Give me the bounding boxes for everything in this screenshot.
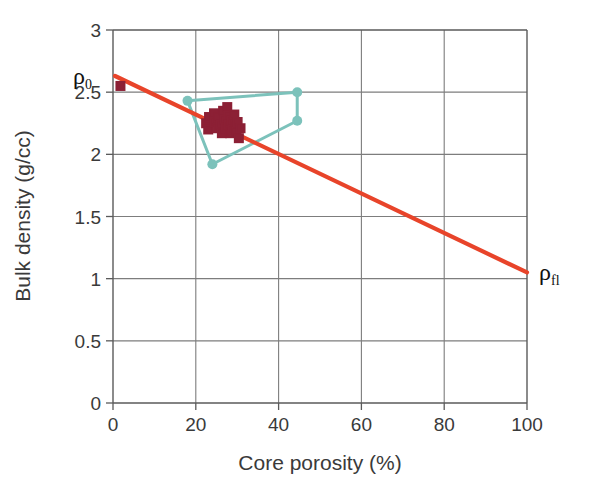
x-tick-label: 20 (185, 414, 206, 435)
x-tick-label: 80 (434, 414, 455, 435)
y-tick-label: 1.5 (75, 207, 101, 228)
y-tick-label: 1 (90, 269, 101, 290)
matrix-density-label-subscript: 0 (85, 77, 92, 92)
loop-vertex-marker (207, 159, 217, 169)
y-tick-label: 0 (90, 393, 101, 414)
y-tick-label: 2 (90, 144, 101, 165)
data-point-marker (236, 124, 244, 132)
x-tick-label: 100 (511, 414, 543, 435)
loop-vertex-marker (183, 96, 193, 106)
x-axis-title: Core porosity (%) (238, 451, 401, 474)
data-point-marker (116, 82, 124, 90)
chart-figure: 00.511.522.53020406080100 ρ0ρfl Core por… (0, 0, 596, 487)
data-point-marker (235, 134, 243, 142)
x-tick-label: 0 (108, 414, 119, 435)
x-tick-label: 40 (268, 414, 289, 435)
bulk-density-vs-core-porosity-chart: 00.511.522.53020406080100 ρ0ρfl Core por… (0, 0, 596, 487)
y-tick-label: 3 (90, 20, 101, 41)
y-axis-title: Bulk density (g/cc) (11, 130, 34, 302)
loop-vertex-marker (292, 116, 302, 126)
y-tick-label: 0.5 (75, 331, 101, 352)
chart-background (0, 0, 596, 487)
loop-vertex-marker (292, 87, 302, 97)
fluid-density-label-subscript: fl (551, 273, 560, 288)
x-tick-label: 60 (351, 414, 372, 435)
